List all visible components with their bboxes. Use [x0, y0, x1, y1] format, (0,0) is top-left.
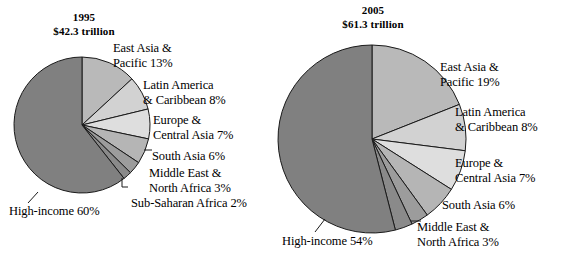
leader-line-high-income [28, 192, 38, 203]
slice-label-east-asia-pacific: East Asia & Pacific 13% [113, 41, 173, 71]
slice-label-line-1: Latin America [143, 78, 226, 93]
slice-label-south-asia: South Asia 6% [152, 149, 225, 164]
pie-chart-figure: 1995 $42.3 trillion East Asia & Pacific … [0, 0, 577, 267]
slice-label-line-2: Central Asia 7% [455, 171, 535, 186]
slice-label-line-2: & Caribbean 8% [455, 120, 538, 135]
slice-label-south-asia: South Asia 6% [442, 198, 515, 213]
slice-label-high-income: High-income 54% [282, 234, 373, 249]
slice-label-line-2: North Africa 3% [417, 235, 499, 250]
slice-label-europe-central-asia: Europe & Central Asia 7% [153, 113, 233, 143]
slice-label-line-1: Europe & [153, 113, 233, 128]
slice-label-europe-central-asia: Europe & Central Asia 7% [455, 156, 535, 186]
slice-label-middle-east-north-africa: Middle East & North Africa 3% [149, 166, 231, 196]
slice-label-latin-america-caribbean: Latin America & Caribbean 8% [455, 105, 538, 135]
slice-label-line-1: South Asia 6% [152, 149, 225, 164]
slice-label-line-2: Pacific 13% [113, 56, 173, 71]
slice-label-middle-east-north-africa: Middle East & North Africa 3% [417, 220, 499, 250]
slice-label-line-1: South Asia 6% [442, 198, 515, 213]
chart-panel-1995: 1995 $42.3 trillion East Asia & Pacific … [0, 0, 290, 267]
slice-label-line-2: & Caribbean 8% [143, 93, 226, 108]
slice-label-line-1: Europe & [455, 156, 535, 171]
slice-label-line-1: Latin America [455, 105, 538, 120]
slice-label-line-2: North Africa 3% [149, 181, 231, 196]
slice-label-line-1: East Asia & [440, 60, 500, 75]
slice-label-line-1: High-income 54% [282, 234, 373, 249]
slice-label-line-1: High-income 60% [9, 204, 100, 219]
slice-label-line-1: Middle East & [417, 220, 499, 235]
slice-label-line-1: Sub-Saharan Africa 2% [131, 196, 247, 211]
slice-label-line-2: Pacific 19% [440, 75, 500, 90]
leader-line-ssa [122, 178, 128, 187]
leader-line-high-income [315, 219, 325, 232]
slice-label-latin-america-caribbean: Latin America & Caribbean 8% [143, 78, 226, 108]
slice-label-high-income: High-income 60% [9, 204, 100, 219]
slice-label-line-2: Central Asia 7% [153, 128, 233, 143]
slice-label-east-asia-pacific: East Asia & Pacific 19% [440, 60, 500, 90]
slice-label-line-1: Middle East & [149, 166, 231, 181]
chart-panel-2005: 2005 $61.3 trillion East Asia & Pacific … [287, 0, 577, 267]
slice-label-sub-saharan-africa: Sub-Saharan Africa 2% [131, 196, 247, 211]
slice-label-line-1: East Asia & [113, 41, 173, 56]
